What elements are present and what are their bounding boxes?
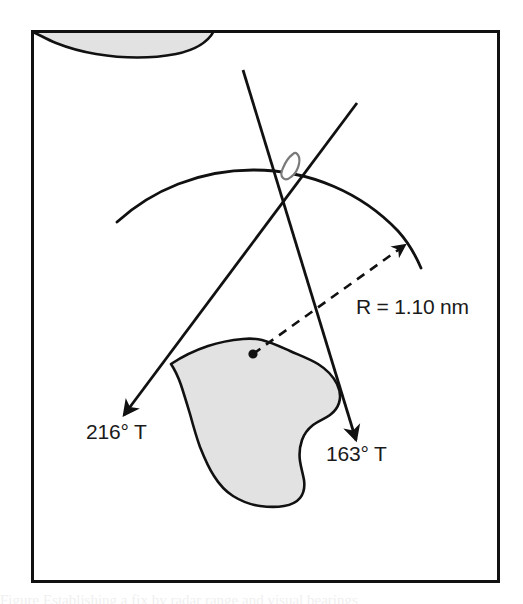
nautical-chart-figure: 216° T 163° T R = 1.10 nm Figure Establi… bbox=[0, 0, 523, 604]
range-label: R = 1.10 nm bbox=[356, 295, 469, 319]
bearing-label-163: 163° T bbox=[326, 442, 387, 466]
range-origin-dot bbox=[248, 349, 257, 358]
caption-sliver: Figure Establishing a fix by radar range… bbox=[0, 592, 523, 604]
bearing-label-216: 216° T bbox=[86, 420, 147, 444]
